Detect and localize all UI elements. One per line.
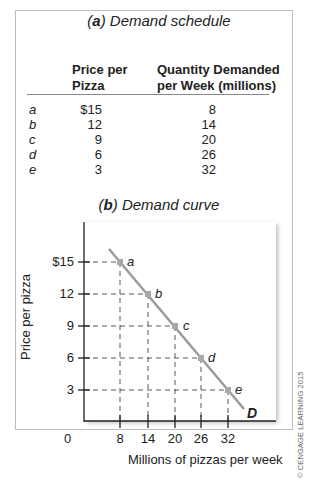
y-tick: 12 (46, 286, 74, 301)
point-label-a: a (127, 254, 134, 269)
demand-curve-chart (0, 0, 318, 492)
point-label-e: e (235, 382, 242, 397)
y-tick: $15 (46, 254, 74, 269)
point-label-c: c (183, 318, 190, 333)
point-label-d: d (208, 350, 215, 365)
curve-label: D (247, 405, 257, 421)
x-tick: 32 (214, 431, 242, 446)
y-tick: 6 (46, 350, 74, 365)
y-tick: 3 (46, 382, 74, 397)
x-tick: 14 (134, 431, 162, 446)
x-tick: 20 (161, 431, 189, 446)
point-label-b: b (155, 286, 162, 301)
x-axis-label: Millions of pizzas per week (128, 452, 283, 467)
y-tick: 9 (46, 318, 74, 333)
x-tick: 26 (187, 431, 215, 446)
y-axis-label: Price per pizza (18, 274, 33, 360)
copyright-notice: © CENGAGE LEARNING 2015 (296, 371, 305, 478)
x-tick: 8 (106, 431, 134, 446)
origin-label: 0 (64, 431, 71, 446)
